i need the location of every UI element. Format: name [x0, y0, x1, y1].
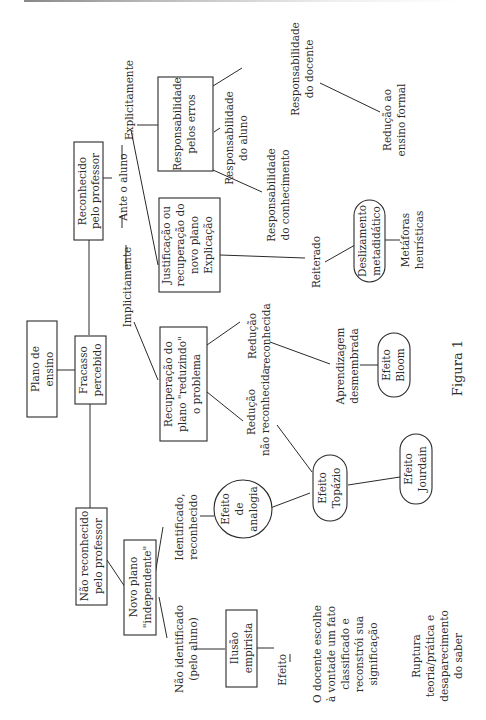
svg-text:Redução: Redução — [245, 389, 257, 435]
svg-text:Responsabilidade: Responsabilidade — [171, 77, 183, 171]
figure-caption: Figura 1 — [450, 340, 465, 396]
svg-text:do saber: do saber — [452, 632, 464, 679]
label-resp-aluno: Responsabilidade do aluno — [223, 91, 249, 185]
svg-text:ensino formal: ensino formal — [395, 83, 407, 157]
svg-text:plano "reduzindo": plano "reduzindo" — [176, 336, 188, 432]
svg-text:Fracasso: Fracasso — [77, 346, 89, 394]
svg-text:Efeito: Efeito — [316, 472, 328, 504]
svg-text:recuperação do: recuperação do — [174, 204, 186, 287]
svg-text:Explicitamente: Explicitamente — [123, 60, 135, 140]
label-identificado-reconhecido: Identificado, reconhecido — [173, 494, 199, 561]
node-recuperacao: Recuperação do plano "reduzindo" o probl… — [160, 327, 207, 441]
node-deslizamento-metadidatico: Deslizamento metadidático — [354, 200, 385, 282]
didactic-effects-diagram: Plano de ensino Fracasso percebido Recon… — [0, 0, 486, 720]
svg-text:Responsabilidade: Responsabilidade — [223, 91, 235, 185]
svg-text:O docente escolhe: O docente escolhe — [311, 605, 323, 703]
svg-text:não reconhecida: não reconhecida — [259, 368, 271, 456]
svg-text:classificado e: classificado e — [339, 618, 351, 689]
label-implicitamente: Implicitamente — [121, 247, 133, 328]
svg-text:Explicação: Explicação — [202, 216, 214, 274]
svg-text:Redução ao: Redução ao — [381, 89, 393, 151]
svg-text:metadidático: metadidático — [370, 206, 382, 276]
svg-text:pelo professor: pelo professor — [92, 517, 104, 594]
svg-text:Reconhecido: Reconhecido — [76, 157, 88, 225]
svg-text:"independente": "independente" — [141, 546, 153, 629]
label-docente-escolhe: O docente escolhe à vontade um fato clas… — [311, 605, 379, 703]
node-efeito-jourdain: Efeito Jourdain — [400, 434, 432, 504]
svg-text:Ilusão: Ilusão — [228, 632, 240, 664]
node-resp-erros: Responsabilidade pelos erros — [158, 77, 213, 171]
svg-text:o problema: o problema — [190, 354, 202, 414]
svg-text:do conhecimento: do conhecimento — [279, 149, 291, 240]
label-reducao-reconhecida: Redução reconhecida — [246, 303, 272, 368]
node-efeito-topazio: Efeito Topázio — [313, 455, 347, 521]
svg-text:reconhecida: reconhecida — [260, 303, 272, 368]
label-ante-aluno: Ante o aluno — [117, 153, 129, 221]
svg-text:à vontade um fato: à vontade um fato — [325, 606, 337, 702]
svg-text:Responsabilidade: Responsabilidade — [265, 148, 277, 242]
label-reducao-nao-reconhecida: Redução não reconhecida — [245, 368, 271, 456]
label-reiterado: Reiterado — [310, 236, 322, 288]
svg-text:desaparecimento: desaparecimento — [438, 610, 450, 702]
svg-text:Plano de: Plano de — [29, 346, 41, 392]
svg-text:Não identificado: Não identificado — [173, 605, 185, 693]
svg-text:Implicitamente: Implicitamente — [121, 247, 133, 328]
label-resp-docente: Responsabilidade do docente — [289, 22, 315, 116]
svg-text:percebido: percebido — [91, 343, 103, 396]
svg-text:Efeito: Efeito — [219, 493, 231, 525]
svg-text:Figura 1: Figura 1 — [450, 340, 465, 396]
svg-text:de: de — [233, 503, 245, 516]
label-nao-identificado: Não identificado (pelo aluno) — [173, 605, 199, 693]
label-metaforas-heuristicas: Metáforas heurísticas — [399, 211, 425, 270]
svg-text:ensino: ensino — [43, 352, 55, 387]
svg-text:Efeito: Efeito — [402, 453, 414, 485]
svg-text:Topázio: Topázio — [330, 468, 342, 509]
svg-text:heurísticas: heurísticas — [413, 211, 425, 270]
svg-text:Bloom: Bloom — [394, 348, 406, 382]
svg-text:reconhecido: reconhecido — [187, 494, 199, 559]
svg-text:Responsabilidade: Responsabilidade — [289, 22, 301, 116]
svg-text:Justificação ou: Justificação ou — [160, 206, 172, 285]
svg-text:empirista: empirista — [242, 623, 254, 674]
label-ruptura: Ruptura teoria/prática e desaparecimento… — [410, 610, 464, 702]
node-reconhecido-professor: Reconhecido pelo professor — [74, 142, 103, 240]
node-efeito-analogia: Efeito de analogia — [214, 480, 272, 538]
svg-text:teoria/prática e: teoria/prática e — [424, 615, 436, 697]
svg-text:Jourdain: Jourdain — [416, 446, 428, 493]
label-resp-conhecimento: Responsabilidade do conhecimento — [265, 148, 291, 242]
svg-text:Novo plano: Novo plano — [127, 557, 139, 618]
svg-text:Aprendizagem: Aprendizagem — [334, 327, 346, 405]
svg-text:Identificado,: Identificado, — [173, 494, 185, 561]
svg-text:reconstrói sua: reconstrói sua — [353, 616, 365, 692]
label-efeito: Efeito — [276, 654, 288, 686]
svg-text:Reiterado: Reiterado — [310, 236, 322, 288]
svg-text:Ruptura: Ruptura — [410, 634, 422, 678]
svg-text:do docente: do docente — [303, 40, 315, 99]
svg-text:Não reconhecido: Não reconhecido — [78, 511, 90, 602]
svg-text:Efeito: Efeito — [276, 654, 288, 686]
svg-text:significação: significação — [367, 622, 379, 685]
svg-text:desmembrada: desmembrada — [348, 328, 360, 403]
node-novo-plano: Novo plano "independente" — [124, 540, 156, 635]
node-plano-ensino: Plano de ensino — [27, 321, 57, 417]
svg-text:(pelo aluno): (pelo aluno) — [187, 617, 199, 681]
label-explicitamente: Explicitamente — [123, 60, 135, 140]
svg-text:Deslizamento: Deslizamento — [356, 205, 368, 277]
svg-text:do aluno: do aluno — [237, 115, 249, 161]
node-nao-reconhecido-professor: Não reconhecido pelo professor — [76, 508, 107, 605]
node-ilusao-empirista: Ilusão empirista — [226, 610, 257, 687]
svg-text:analogia: analogia — [247, 486, 259, 531]
svg-text:pelo professor: pelo professor — [89, 152, 101, 229]
svg-text:Efeito: Efeito — [380, 349, 392, 381]
svg-text:Redução: Redução — [246, 313, 258, 359]
svg-text:Recuperação do: Recuperação do — [162, 341, 174, 427]
label-aprendizagem-desmembrada: Aprendizagem desmembrada — [334, 327, 360, 405]
node-justificacao: Justificação ou recuperação do novo plan… — [159, 198, 220, 292]
svg-text:pelos erros: pelos erros — [185, 94, 197, 153]
svg-text:Ante o aluno: Ante o aluno — [117, 153, 129, 221]
label-reducao-formal: Redução ao ensino formal — [381, 83, 407, 157]
svg-text:Metáforas: Metáforas — [399, 213, 411, 267]
node-fracasso-percebido: Fracasso percebido — [75, 336, 106, 404]
node-efeito-bloom: Efeito Bloom — [378, 333, 410, 397]
svg-text:novo plano: novo plano — [188, 216, 200, 274]
